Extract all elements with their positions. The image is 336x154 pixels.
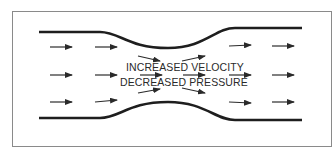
- arrow-icon: [229, 102, 251, 103]
- arrow-icon: [229, 45, 251, 46]
- arrow-icon: [138, 89, 160, 93]
- pipe-bottom-wall: [39, 102, 302, 120]
- arrow-icon: [182, 88, 205, 93]
- flow-arrows-bottom-row: [50, 88, 294, 103]
- increased-velocity-label: INCREASED VELOCITY: [126, 61, 244, 73]
- decreased-pressure-label: DECREASED PRESSURE: [120, 76, 248, 88]
- pipe-top-wall: [39, 28, 302, 48]
- venturi-diagram: INCREASED VELOCITY DECREASED PRESSURE: [0, 0, 336, 154]
- arrow-icon: [95, 100, 117, 102]
